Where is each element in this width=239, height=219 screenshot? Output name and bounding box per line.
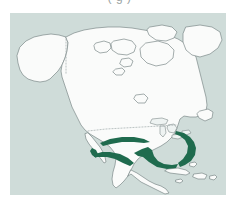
north-america-map <box>10 13 226 195</box>
distribution-map-panel <box>10 13 226 195</box>
figure-caption-strip: ( g ) <box>0 0 239 12</box>
land-arctic-island-small-a <box>120 58 133 67</box>
figure-container: ( g ) <box>0 0 239 219</box>
figure-caption: ( g ) <box>0 0 239 4</box>
land-hispaniola <box>193 173 207 179</box>
lake-superior <box>150 118 168 125</box>
